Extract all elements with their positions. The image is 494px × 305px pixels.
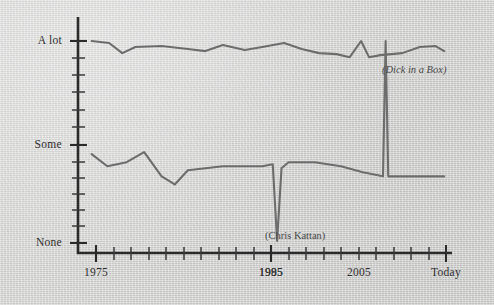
x-axis-label-1975: 1975 [66,266,126,278]
y-axis-label-a-lot: A lot [6,34,62,46]
x-axis-ticks [96,245,446,262]
annotation-dick-in-a-box: (Dick in a Box) [382,64,446,75]
x-axis-label-today: Today [416,266,476,278]
upper-data-line [92,41,445,57]
x-axis-label-1995: 1995 [241,266,301,278]
plot-area [0,0,494,305]
annotation-chris-kattan: (Chris Kattan) [265,230,325,241]
xkcd-style-chart: A lot Some None 1975 1985 1985 1985 1985… [0,0,494,305]
y-axis-label-some: Some [6,138,62,150]
x-axis-label-2005: 2005 [329,266,389,278]
y-axis-label-none: None [6,236,62,248]
